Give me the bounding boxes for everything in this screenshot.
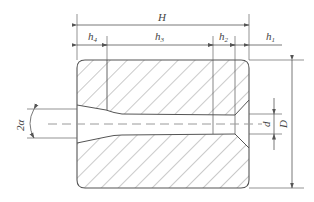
label-h2: h2: [219, 30, 229, 44]
label-d: d: [260, 121, 272, 127]
label-2alpha: 2α: [14, 120, 26, 132]
label-h1: h1: [266, 30, 275, 44]
lower-section-hatch: [70, 125, 260, 195]
angle-arc: [30, 109, 34, 138]
die-diagram: H h4 h3 h2 h1 D d 2α: [0, 0, 314, 202]
label-h3: h3: [155, 30, 165, 44]
label-h4: h4: [88, 30, 98, 44]
label-H: H: [157, 11, 167, 23]
label-D: D: [277, 120, 289, 129]
